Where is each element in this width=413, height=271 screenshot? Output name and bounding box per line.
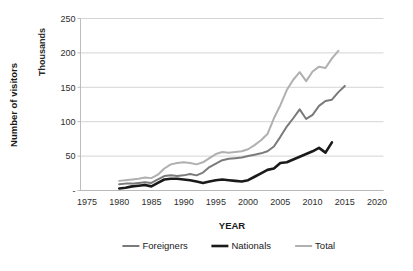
legend-label-foreigners: Foreigners (142, 240, 188, 251)
legend-label-nationals: Nationals (231, 240, 271, 251)
x-tick-label: 1975 (77, 197, 97, 207)
y-tick-label: 200 (60, 48, 75, 58)
legend-label-total: Total (315, 240, 335, 251)
axis-lines (81, 19, 384, 191)
y-tick-label: 50 (65, 151, 75, 161)
y-axis-title: Number of visitors (8, 63, 19, 147)
x-tick-label: 1995 (206, 197, 226, 207)
x-tick-label: 2000 (238, 197, 258, 207)
x-tick-label: 2015 (335, 197, 355, 207)
series-line-nationals (119, 142, 332, 188)
x-axis-tick-labels: 1975198019851990199520002005201020152020 (77, 197, 387, 207)
chart-legend: ForeignersNationalsTotal (122, 240, 335, 251)
series-line-total (119, 51, 338, 181)
x-tick-label: 2005 (270, 197, 290, 207)
y-tick-label: 150 (60, 83, 75, 93)
line-chart: -50100150200250 197519801985199019952000… (0, 0, 413, 271)
x-tick-label: 2010 (303, 197, 323, 207)
y-tick-label: 250 (60, 14, 75, 24)
series-lines (119, 51, 345, 189)
x-axis-title: YEAR (219, 220, 246, 231)
x-tick-label: 1980 (109, 197, 129, 207)
x-tick-label: 1990 (174, 197, 194, 207)
x-tick-label: 1985 (141, 197, 161, 207)
series-line-foreigners (119, 86, 345, 184)
chart-container: -50100150200250 197519801985199019952000… (0, 0, 413, 271)
y-axis-unit-label: Thousands (37, 28, 47, 76)
y-axis-tick-labels: -50100150200250 (60, 14, 80, 196)
x-tick-label: 2020 (367, 197, 387, 207)
gridlines (81, 19, 384, 191)
y-tick-label: 100 (60, 117, 75, 127)
y-tick-label: - (73, 186, 76, 196)
